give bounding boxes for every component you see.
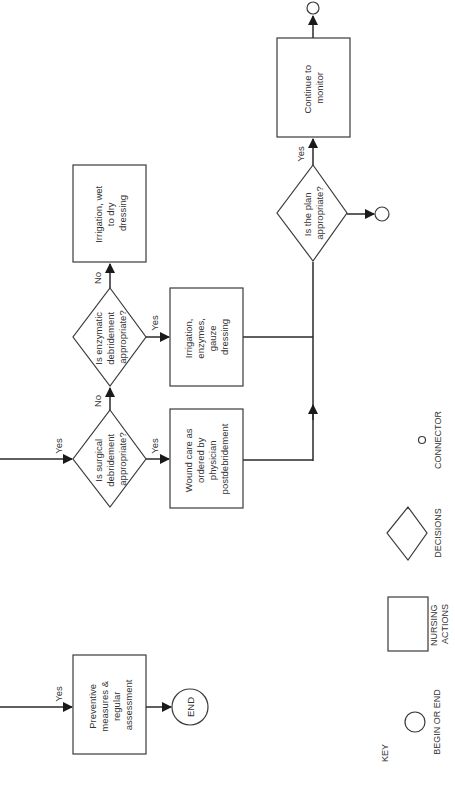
label-surgical-in-yes: Yes [53, 438, 64, 454]
key-begin-end-label: BEGIN OR END [432, 689, 442, 755]
surgical-decision-text: Is surgical debridement appropriate? [93, 431, 128, 486]
key-begin-end: BEGIN OR END [405, 689, 442, 755]
key-decisions-label: DECISIONS [433, 508, 443, 558]
label-preventive-in-yes: Yes [53, 686, 64, 702]
label-surgical-no: No [92, 395, 103, 407]
flowchart: Continue to monitor Yes Is the plan appr… [0, 0, 455, 786]
key-connector: CONNECTOR [419, 411, 444, 469]
label-enzymatic-yes: Yes [149, 315, 160, 331]
label-surgical-yes: Yes [149, 438, 160, 454]
connector-top [307, 2, 319, 14]
key-connector-label: CONNECTOR [433, 411, 443, 469]
key-nursing-actions-label: NURSING ACTIONS [429, 602, 450, 646]
key-nursing-actions: NURSING ACTIONS [388, 597, 450, 651]
end-text: END [185, 697, 196, 717]
key-circle-icon [405, 712, 425, 732]
key-title: KEY [380, 744, 390, 762]
key-diamond-icon [387, 507, 427, 560]
key-small-circle-icon [419, 437, 426, 444]
key-rectangle-icon [388, 597, 428, 651]
label-plan-yes: Yes [295, 146, 306, 162]
key-decisions: DECISIONS [387, 507, 443, 560]
plan-appropriate-text: Is the plan appropriate? [302, 186, 325, 239]
connector-right [375, 207, 389, 221]
enzymatic-decision-text: Is enzymatic debridement appropriate? [93, 309, 128, 364]
label-enzymatic-no: No [92, 272, 103, 284]
